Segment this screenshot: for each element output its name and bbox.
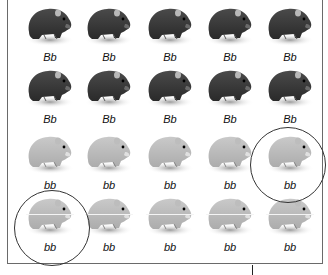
hamster-cell: bb [140, 130, 200, 194]
genotype-label: bb [140, 179, 200, 191]
hamster-cell: Bb [260, 2, 320, 66]
divider-line [266, 214, 314, 215]
hamster-cell: Bb [200, 2, 260, 66]
genotype-label: bb [79, 241, 139, 253]
connector-tick [252, 265, 253, 275]
genotype-label: bb [79, 179, 139, 191]
hamster-cell: Bb [260, 64, 320, 128]
hamster-cell: bb [200, 192, 260, 256]
genotype-label: bb [200, 179, 260, 191]
divider-line [85, 214, 133, 215]
hamster-cell: Bb [79, 2, 139, 66]
genotype-label: Bb [260, 51, 320, 63]
hamster-cell: Bb [20, 2, 80, 66]
genotype-label: Bb [79, 113, 139, 125]
genotype-label: Bb [20, 51, 80, 63]
genotype-label: bb [260, 241, 320, 253]
hamster-cell: Bb [140, 2, 200, 66]
genotype-label: Bb [140, 113, 200, 125]
genotype-label: bb [140, 241, 200, 253]
hamster-cell: bb [79, 130, 139, 194]
highlight-circle-row3-col5 [250, 127, 326, 203]
divider-line [146, 214, 194, 215]
hamster-cell: Bb [79, 64, 139, 128]
genotype-label: Bb [140, 51, 200, 63]
genotype-label: bb [200, 241, 260, 253]
hamster-cell: bb [20, 130, 80, 194]
genotype-label: Bb [200, 51, 260, 63]
genotype-label: Bb [200, 113, 260, 125]
hamster-cell: Bb [200, 64, 260, 128]
hamster-cell: Bb [140, 64, 200, 128]
genotype-label: Bb [79, 51, 139, 63]
genotype-label: Bb [260, 113, 320, 125]
hamster-cell: Bb [20, 64, 80, 128]
divider-line [206, 214, 254, 215]
highlight-circle-row4-col1 [14, 190, 90, 266]
hamster-cell: bb [140, 192, 200, 256]
genotype-label: Bb [20, 113, 80, 125]
